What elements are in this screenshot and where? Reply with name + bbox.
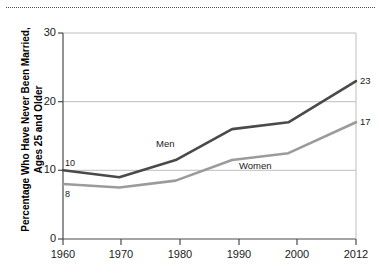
x-tick-1980: 1980	[160, 248, 200, 260]
x-axis-ticks	[63, 239, 356, 245]
line-chart-svg	[0, 0, 381, 272]
end-value-men: 23	[360, 75, 371, 86]
series-line-men	[63, 81, 356, 177]
x-tick-2000: 2000	[277, 248, 317, 260]
series-line-women	[63, 122, 356, 187]
series-annotation-men: Men	[156, 138, 174, 149]
axis-lines	[63, 33, 356, 239]
series-annotation-women: Women	[239, 160, 272, 171]
y-tick-20: 20	[32, 95, 56, 107]
gridlines	[63, 33, 356, 170]
x-tick-1960: 1960	[43, 248, 83, 260]
y-tick-30: 30	[32, 26, 56, 38]
end-value-women: 17	[360, 116, 371, 127]
y-tick-10: 10	[32, 163, 56, 175]
plot-area: 30 20 10 0 1960 1970 1980 1990 2000 2012…	[0, 0, 381, 272]
x-tick-2012: 2012	[336, 248, 376, 260]
y-axis-ticks	[58, 33, 63, 239]
start-value-women: 8	[65, 189, 70, 199]
chart-figure: Percentage Who Have Never Been Married, …	[0, 0, 381, 272]
x-tick-1970: 1970	[101, 248, 141, 260]
start-value-men: 10	[65, 158, 75, 168]
y-tick-0: 0	[32, 232, 56, 244]
x-tick-1990: 1990	[219, 248, 259, 260]
